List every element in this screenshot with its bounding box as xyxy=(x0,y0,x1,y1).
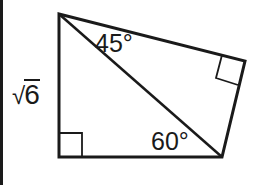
radical-symbol: √ xyxy=(12,82,25,109)
angle-label-60: 60° xyxy=(151,129,189,154)
side-length-label: √6 xyxy=(12,79,40,109)
radicand-value: 6 xyxy=(24,79,40,109)
right-angle-marker-bottom-left xyxy=(59,133,82,157)
angle-label-45: 45° xyxy=(95,31,133,56)
diagram-canvas: √6 45° 60° xyxy=(0,0,258,185)
